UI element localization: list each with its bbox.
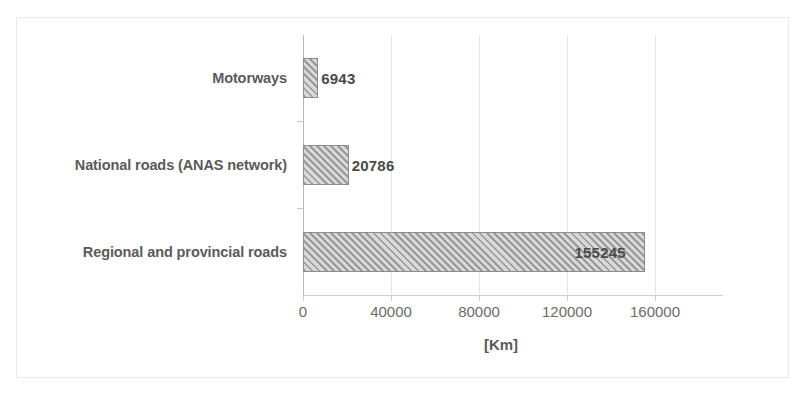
bar-row-national-roads: 20786 [303,122,699,209]
x-axis-title: [Km] [303,336,699,353]
bar-value-national-roads: 20786 [352,156,395,173]
y-axis-label-regional-roads: Regional and provincial roads [83,208,287,295]
x-axis-tick-80000 [479,296,480,301]
bar-row-motorways: 6943 [303,35,699,122]
x-axis-ticklabels: 0 40000 80000 120000 160000 [0,303,808,327]
plot-area: 6943 20786 155245 [303,35,699,295]
bar-motorways[interactable] [303,58,318,98]
x-axis-ticklabel-40000: 40000 [370,303,412,320]
x-axis-ticklabel-80000: 80000 [458,303,500,320]
x-axis-ticklabel-160000: 160000 [630,303,680,320]
x-axis-tick-40000 [391,296,392,301]
x-axis-tick-0 [303,296,304,301]
bar-value-regional-roads: 155245 [575,243,626,260]
bar-row-regional-roads: 155245 [303,208,699,295]
x-axis-line [303,295,723,296]
y-axis-labels: Motorways National roads (ANAS network) … [0,35,295,295]
x-axis-ticklabel-120000: 120000 [542,303,592,320]
x-axis-tick-160000 [655,296,656,301]
bar-national-roads[interactable] [303,145,349,185]
bar-value-motorways: 6943 [321,70,355,87]
y-axis-label-national-roads: National roads (ANAS network) [75,122,287,209]
x-axis-ticklabel-0: 0 [299,303,307,320]
chart-figure: 6943 20786 155245 Motorways National roa… [0,0,808,398]
y-axis-label-motorways: Motorways [212,35,287,122]
x-axis-tick-120000 [567,296,568,301]
